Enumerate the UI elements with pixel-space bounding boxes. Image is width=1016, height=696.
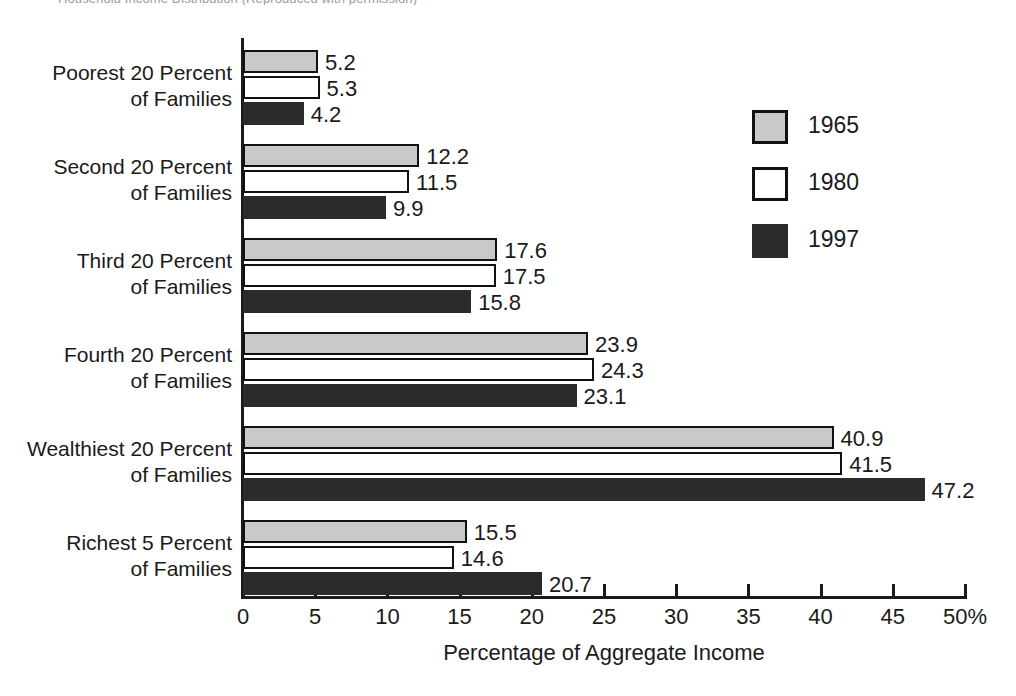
bar bbox=[243, 572, 542, 595]
x-axis-tick bbox=[820, 584, 823, 599]
bar-value-label: 24.3 bbox=[601, 359, 644, 382]
bar bbox=[243, 170, 409, 193]
bar-value-label: 17.6 bbox=[504, 239, 547, 262]
category-label-line: of Families bbox=[2, 86, 232, 112]
bar-value-label: 47.2 bbox=[932, 479, 975, 502]
chart-figure: Household Income Distribution (Reproduce… bbox=[0, 0, 1016, 696]
legend-label: 1980 bbox=[808, 169, 859, 196]
bar bbox=[243, 452, 842, 475]
category-label-line: Wealthiest 20 Percent bbox=[2, 436, 232, 462]
bar bbox=[243, 520, 467, 543]
category-label-line: of Families bbox=[2, 274, 232, 300]
category-label-line: Second 20 Percent bbox=[2, 154, 232, 180]
bar bbox=[243, 102, 304, 125]
category-label: Wealthiest 20 Percentof Families bbox=[2, 436, 232, 488]
category-label-line: Third 20 Percent bbox=[2, 248, 232, 274]
category-label: Second 20 Percentof Families bbox=[2, 154, 232, 206]
legend-label: 1997 bbox=[808, 226, 859, 253]
bar-value-label: 23.9 bbox=[595, 333, 638, 356]
bar-value-label: 11.5 bbox=[416, 171, 457, 194]
x-axis-title: Percentage of Aggregate Income bbox=[243, 640, 965, 666]
category-label-line: Richest 5 Percent bbox=[2, 530, 232, 556]
bar-value-label: 5.2 bbox=[325, 51, 356, 74]
category-label-line: of Families bbox=[2, 180, 232, 206]
bar bbox=[243, 238, 497, 261]
x-axis-tick-label: 25 bbox=[592, 604, 616, 630]
bar-value-label: 41.5 bbox=[849, 453, 892, 476]
x-axis-tick-label: 0 bbox=[237, 604, 249, 630]
bar-value-label: 20.7 bbox=[549, 573, 592, 596]
x-axis-tick-label: 20 bbox=[520, 604, 544, 630]
bar-value-label: 17.5 bbox=[503, 265, 546, 288]
x-axis-tick bbox=[675, 584, 678, 599]
bar-value-label: 14.6 bbox=[461, 547, 504, 570]
bar bbox=[243, 144, 419, 167]
category-label-line: of Families bbox=[2, 556, 232, 582]
bar-value-label: 15.5 bbox=[474, 521, 517, 544]
bar-value-label: 15.8 bbox=[478, 291, 521, 314]
x-axis-tick bbox=[747, 584, 750, 599]
category-label-column: Poorest 20 Percentof FamiliesSecond 20 P… bbox=[0, 38, 232, 598]
category-label-line: of Families bbox=[2, 368, 232, 394]
category-label: Fourth 20 Percentof Families bbox=[2, 342, 232, 394]
bar bbox=[243, 546, 454, 569]
legend-swatch-icon bbox=[752, 167, 788, 201]
category-label-line: Fourth 20 Percent bbox=[2, 342, 232, 368]
legend-label: 1965 bbox=[808, 112, 859, 139]
bar-value-label: 5.3 bbox=[327, 77, 358, 100]
x-axis-tick-label: 50% bbox=[943, 604, 987, 630]
top-caption: Household Income Distribution (Reproduce… bbox=[58, 0, 958, 5]
bar bbox=[243, 76, 320, 99]
bar bbox=[243, 50, 318, 73]
x-axis-tick-label: 45 bbox=[881, 604, 905, 630]
x-axis-tick bbox=[892, 584, 895, 599]
bar bbox=[243, 478, 925, 501]
x-axis-tick-label: 5 bbox=[309, 604, 321, 630]
bar bbox=[243, 384, 577, 407]
bar bbox=[243, 426, 834, 449]
x-axis-tick-label: 10 bbox=[375, 604, 399, 630]
bar-value-label: 4.2 bbox=[311, 103, 342, 126]
x-axis-tick-label: 40 bbox=[808, 604, 832, 630]
bar bbox=[243, 332, 588, 355]
x-axis-tick bbox=[964, 584, 967, 599]
category-label-line: Poorest 20 Percent bbox=[2, 60, 232, 86]
bar-value-label: 40.9 bbox=[841, 427, 884, 450]
x-axis-tick-label: 15 bbox=[447, 604, 471, 630]
legend-swatch-icon bbox=[752, 110, 788, 144]
bar-value-label: 9.9 bbox=[393, 197, 424, 220]
bar bbox=[243, 358, 594, 381]
bar-value-label: 12.2 bbox=[426, 145, 469, 168]
bar bbox=[243, 264, 496, 287]
category-label-line: of Families bbox=[2, 462, 232, 488]
x-axis-tick-label: 30 bbox=[664, 604, 688, 630]
category-label: Poorest 20 Percentof Families bbox=[2, 60, 232, 112]
bar bbox=[243, 290, 471, 313]
category-label: Third 20 Percentof Families bbox=[2, 248, 232, 300]
x-axis-tick-label: 35 bbox=[736, 604, 760, 630]
category-label: Richest 5 Percentof Families bbox=[2, 530, 232, 582]
bar bbox=[243, 196, 386, 219]
bar-value-label: 23.1 bbox=[584, 385, 627, 408]
x-axis-tick bbox=[603, 584, 606, 599]
legend-swatch-icon bbox=[752, 224, 788, 258]
